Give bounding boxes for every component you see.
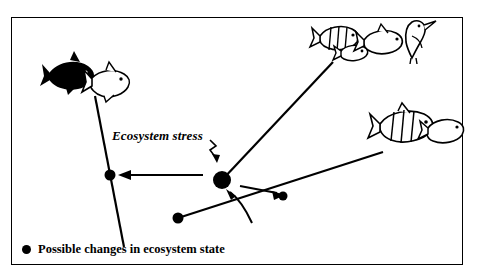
arrow-to-left-node-head <box>118 170 131 180</box>
central-state-node <box>213 171 231 189</box>
bird-top-right <box>406 21 436 64</box>
left-state-node <box>105 170 116 181</box>
upper-right-branch-line <box>222 62 333 180</box>
diagram-canvas <box>0 0 480 280</box>
legend-filled-circle-icon <box>22 245 31 254</box>
trajectory-lines <box>95 62 383 247</box>
curved-arrow-to-center-head <box>226 189 236 200</box>
legend: Possible changes in ecosystem state <box>22 242 225 257</box>
state-nodes <box>105 170 288 224</box>
ecosystem-stress-label: Ecosystem stress <box>112 128 203 144</box>
right-state-node <box>279 192 288 201</box>
diagram-page: Ecosystem stress Possible changes in eco… <box>0 0 480 280</box>
legend-label: Possible changes in ecosystem state <box>38 242 225 257</box>
lower-state-node <box>173 213 184 224</box>
stress-pointer-arrow-head <box>212 154 220 163</box>
lower-right-branch-line <box>178 152 383 218</box>
